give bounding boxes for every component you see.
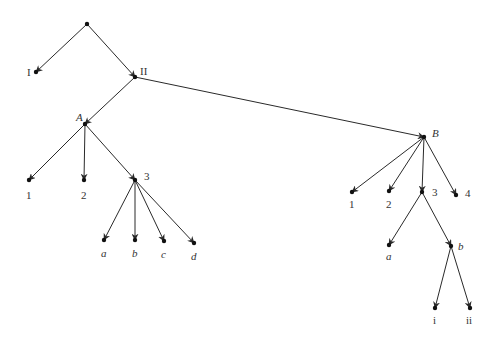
node-Bii (468, 306, 472, 310)
edge-B-B1 (352, 137, 424, 192)
node-Aa (102, 238, 106, 242)
node-label-A: A (75, 111, 83, 123)
edge-B3-Ba (389, 192, 422, 245)
node-label-Aa: a (101, 247, 107, 259)
node-A2 (82, 178, 86, 182)
node-label-A1: 1 (26, 189, 32, 201)
node-B (422, 135, 426, 139)
edge-A-A3 (85, 124, 135, 180)
node-label-Ad: d (191, 250, 197, 262)
node-root (85, 22, 89, 26)
node-label-A2: 2 (81, 189, 87, 201)
tree-diagram: IIIA123abcdB1234abiii (0, 0, 497, 346)
tree-edges (29, 24, 470, 308)
edge-Bb-Bii (451, 246, 470, 308)
edge-B-B3 (422, 137, 424, 192)
edge-A-A2 (84, 124, 85, 180)
edge-Bb-Bi (435, 246, 451, 308)
edge-root-I (36, 24, 87, 72)
node-label-A3: 3 (144, 170, 150, 182)
node-label-Bb: b (458, 240, 464, 252)
node-label-B1: 1 (349, 198, 355, 210)
edge-B-B4 (424, 137, 456, 195)
edge-II-B (135, 77, 424, 137)
node-B2 (387, 189, 391, 193)
edge-A3-Ad (135, 180, 194, 243)
node-A (83, 122, 87, 126)
node-label-B2: 2 (386, 198, 392, 210)
node-Ac (162, 239, 166, 243)
node-label-Ab: b (132, 247, 138, 259)
node-label-Ac: c (161, 248, 166, 260)
edge-A3-Aa (104, 180, 135, 240)
edge-A-A1 (29, 124, 85, 180)
node-Ab (133, 238, 137, 242)
edge-B-B2 (389, 137, 424, 191)
node-label-B3: 3 (432, 186, 438, 198)
node-Bb (449, 244, 453, 248)
edge-II-A (85, 77, 135, 124)
node-B1 (350, 190, 354, 194)
node-label-Bi: i (433, 314, 436, 326)
edge-root-II (87, 24, 135, 77)
node-label-Ba: a (386, 250, 392, 262)
node-A1 (27, 178, 31, 182)
edge-B3-Bb (422, 192, 451, 246)
node-Ba (387, 243, 391, 247)
node-B4 (454, 193, 458, 197)
node-label-Bii: ii (466, 314, 472, 326)
node-I (34, 70, 38, 74)
edge-A3-Ac (135, 180, 164, 241)
node-label-I: I (27, 66, 31, 78)
node-label-B4: 4 (465, 187, 471, 199)
node-label-B: B (432, 127, 439, 139)
node-B3 (420, 190, 424, 194)
node-label-II: II (140, 65, 148, 77)
node-Ad (192, 241, 196, 245)
node-Bi (433, 306, 437, 310)
node-II (133, 75, 137, 79)
tree-labels: IIIA123abcdB1234abiii (26, 65, 472, 326)
node-A3 (133, 178, 137, 182)
